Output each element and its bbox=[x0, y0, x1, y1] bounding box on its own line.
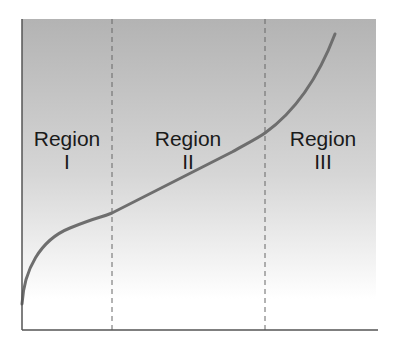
region-numeral: II bbox=[148, 150, 228, 173]
plot-background bbox=[22, 19, 376, 330]
region-1-label: Region I bbox=[27, 127, 107, 173]
region-numeral: III bbox=[283, 150, 363, 173]
region-3-label: Region III bbox=[283, 127, 363, 173]
region-name: Region bbox=[283, 127, 363, 150]
region-2-label: Region II bbox=[148, 127, 228, 173]
region-numeral: I bbox=[27, 150, 107, 173]
region-name: Region bbox=[27, 127, 107, 150]
region-name: Region bbox=[148, 127, 228, 150]
regions-diagram bbox=[0, 0, 393, 348]
